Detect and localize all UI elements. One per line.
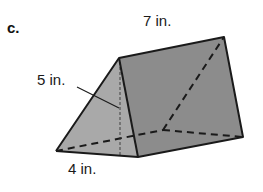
height-label: 5 in. [37,72,65,87]
base-label: 4 in. [68,161,96,176]
triangular-prism-figure [0,0,263,192]
length-label: 7 in. [143,13,171,28]
